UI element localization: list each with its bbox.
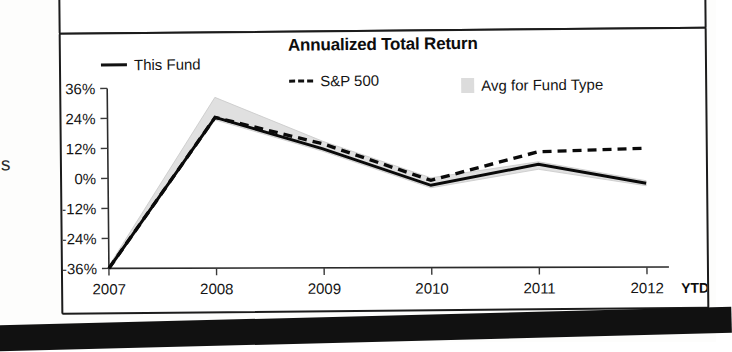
chart-panel: Annualized Total Return This Fund S&P 50… xyxy=(59,27,710,315)
y-axis-label: -36% xyxy=(62,260,97,277)
x-axis-label: 2008 xyxy=(200,280,234,297)
y-axis-label: -12% xyxy=(61,200,96,217)
chart-svg: 36%24%12%0%-12%-24%-36%20072008200920102… xyxy=(61,29,708,313)
plot-area: 36%24%12%0%-12%-24%-36%20072008200920102… xyxy=(61,29,708,313)
y-axis-label: 12% xyxy=(66,140,96,157)
series-avg-for-fund-type-band xyxy=(107,93,647,268)
x-axis-label: 2010 xyxy=(415,280,449,297)
y-axis-label: 0% xyxy=(74,170,96,187)
x-axis-label: 2011 xyxy=(523,279,555,296)
scanned-page: s Annualized Total Return This Fund S&P … xyxy=(0,0,718,345)
series-this-fund xyxy=(107,113,646,268)
series-s-p-500 xyxy=(107,113,646,268)
y-axis-label: 36% xyxy=(65,80,95,97)
x-axis-label: 2007 xyxy=(92,280,126,297)
y-axis-label: -24% xyxy=(62,230,97,247)
x-axis-label: 2012 xyxy=(630,279,664,296)
x-axis-label: 2009 xyxy=(308,280,342,297)
chart-axes xyxy=(107,83,669,272)
x-axis-ytd-label: YTD xyxy=(681,280,707,296)
y-axis-label: 24% xyxy=(65,110,95,127)
cut-off-side-text: s xyxy=(1,153,11,175)
